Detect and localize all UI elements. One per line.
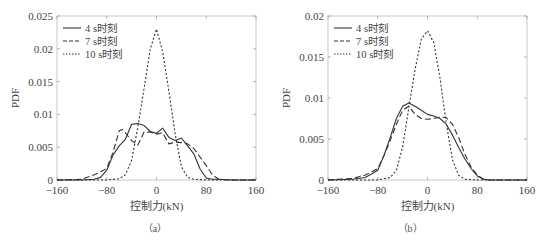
x-tick-label: 80 <box>472 184 484 196</box>
y-tick-label: 0.005 <box>28 141 53 153</box>
panel-label-b: （b） <box>395 220 425 235</box>
panel-label-a: （a） <box>140 220 170 235</box>
x-tick-label: 160 <box>519 184 536 196</box>
y-axis-label: PDF <box>280 88 292 108</box>
legend-label: 4 s时刻 <box>356 22 388 34</box>
x-tick-label: −80 <box>98 184 116 196</box>
series-line-dashed <box>328 106 527 180</box>
x-axis-label: 控制力(kN) <box>401 199 455 213</box>
y-tick-label: 0.02 <box>34 43 53 55</box>
y-tick-label: 0.015 <box>299 51 324 63</box>
legend-label: 10 s时刻 <box>356 48 393 60</box>
legend-label: 4 s时刻 <box>85 22 117 34</box>
legend-label: 10 s时刻 <box>85 48 122 60</box>
chart-panel-a: 00.0050.010.0150.020.025−160−80080160控制力… <box>0 0 270 246</box>
x-tick-label: −160 <box>46 184 69 196</box>
y-tick-label: 0.005 <box>299 133 324 145</box>
pdf-chart-a: 00.0050.010.0150.020.025−160−80080160控制力… <box>0 0 270 246</box>
y-tick-label: 0.02 <box>305 10 324 22</box>
series-line-solid <box>57 124 256 180</box>
x-tick-label: 0 <box>154 184 160 196</box>
legend-label: 7 s时刻 <box>356 35 388 47</box>
y-tick-label: 0.015 <box>28 76 53 88</box>
y-tick-label: 0.01 <box>34 108 53 120</box>
x-tick-label: −80 <box>369 184 387 196</box>
x-tick-label: 80 <box>201 184 213 196</box>
legend: 4 s时刻7 s时刻10 s时刻 <box>334 22 393 60</box>
legend-label: 7 s时刻 <box>85 35 117 47</box>
y-axis-label: PDF <box>9 88 21 108</box>
series-line-solid <box>328 103 527 180</box>
chart-panel-b: 00.0050.010.0150.02−160−80080160控制力(kN)P… <box>270 0 541 246</box>
x-axis-label: 控制力(kN) <box>130 199 184 213</box>
x-tick-label: −160 <box>317 184 340 196</box>
pdf-chart-b: 00.0050.010.0150.02−160−80080160控制力(kN)P… <box>270 0 541 246</box>
x-tick-label: 160 <box>248 184 265 196</box>
x-tick-label: 0 <box>425 184 431 196</box>
y-tick-label: 0.01 <box>305 92 324 104</box>
legend: 4 s时刻7 s时刻10 s时刻 <box>63 22 122 60</box>
series-line-dashed <box>57 130 256 181</box>
y-tick-label: 0.025 <box>28 10 53 22</box>
